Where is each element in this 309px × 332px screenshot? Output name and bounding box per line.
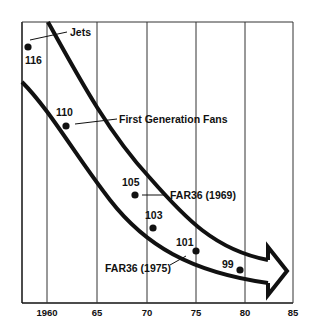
trend-arrow bbox=[22, 22, 287, 295]
point-label-105: 105 bbox=[122, 176, 140, 188]
point-label-110: 110 bbox=[56, 106, 73, 118]
annotation-jets: Jets bbox=[70, 26, 91, 38]
arrow-head-icon bbox=[268, 247, 287, 295]
x-tick-80: 80 bbox=[240, 307, 251, 318]
noise-trend-chart: 116 110 105 103 101 99 Jets First Genera… bbox=[0, 0, 309, 332]
leader-lines bbox=[30, 32, 186, 265]
annotation-far36-1975: FAR36 (1975) bbox=[105, 262, 171, 274]
plot-frame bbox=[22, 22, 293, 303]
point-116 bbox=[24, 43, 31, 50]
annotation-first-generation-fans: First Generation Fans bbox=[119, 113, 228, 125]
point-103 bbox=[149, 224, 156, 231]
point-99 bbox=[236, 266, 243, 273]
upper-trend-curve bbox=[48, 22, 268, 260]
leader-jets bbox=[30, 32, 67, 40]
x-tick-85: 85 bbox=[288, 307, 299, 318]
gridlines bbox=[47, 22, 245, 303]
x-tick-75: 75 bbox=[191, 307, 202, 318]
annotation-far36-1969: FAR36 (1969) bbox=[170, 189, 236, 201]
point-101 bbox=[192, 247, 199, 254]
point-label-103: 103 bbox=[145, 209, 163, 221]
point-label-101: 101 bbox=[176, 236, 194, 248]
x-tick-70: 70 bbox=[142, 307, 153, 318]
point-label-116: 116 bbox=[25, 54, 42, 66]
x-tick-65: 65 bbox=[92, 307, 103, 318]
point-105 bbox=[131, 191, 138, 198]
point-label-99: 99 bbox=[222, 258, 234, 270]
point-110 bbox=[62, 122, 69, 129]
leader-first-gen bbox=[75, 119, 117, 124]
x-tick-1960: 1960 bbox=[36, 307, 57, 318]
